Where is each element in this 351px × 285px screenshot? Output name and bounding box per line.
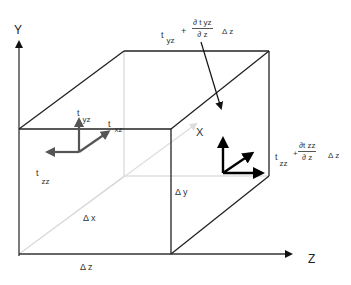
dx-label: Δ x	[83, 214, 96, 223]
far-face-vectors	[223, 140, 261, 173]
x-axis	[19, 124, 196, 254]
t-zz-fraction: ∂t zz ∂ z	[298, 141, 316, 162]
dz-label: Δ z	[80, 263, 93, 272]
z-axis-label: Z	[308, 253, 315, 265]
pointer-arrow	[201, 42, 221, 108]
t-xz-label: txz	[108, 114, 123, 130]
t-yz-fraction: ∂ t yz ∂ z	[192, 18, 213, 39]
y-axis-label: Y	[14, 24, 22, 36]
t-yz-label: tyz	[77, 103, 91, 119]
x-axis-label: X	[196, 127, 203, 138]
dy-label: Δ y	[175, 188, 188, 197]
near-face-vectors	[48, 120, 108, 152]
t-zz-label: tzz	[36, 163, 50, 179]
